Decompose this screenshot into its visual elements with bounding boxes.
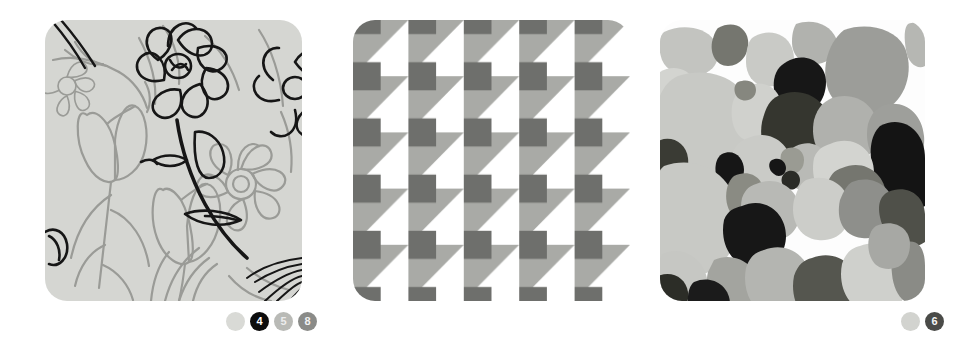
cluster-legend-1: 458 bbox=[226, 311, 317, 331]
checker-texture-image bbox=[353, 20, 630, 301]
legend-badge-1-4[interactable]: 4 bbox=[250, 312, 269, 331]
thumbnail-floral[interactable] bbox=[45, 20, 302, 301]
checker-pattern bbox=[353, 20, 630, 301]
floral-texture-image bbox=[45, 20, 302, 301]
texture-panel-figure: 458 6 bbox=[0, 0, 976, 357]
thumbnail-checker[interactable] bbox=[353, 20, 630, 301]
panel-floral: 458 bbox=[0, 0, 330, 357]
legend-badge-1-8[interactable]: 8 bbox=[298, 312, 317, 331]
legend-swatch-1[interactable] bbox=[226, 312, 245, 331]
legend-badge-1-5[interactable]: 5 bbox=[274, 312, 293, 331]
thumbnail-pebbles[interactable] bbox=[660, 20, 925, 301]
floral-line-art bbox=[45, 20, 302, 301]
pebble-texture-image bbox=[660, 20, 925, 301]
pebble-mosaic bbox=[660, 20, 925, 301]
panel-checker: 6 bbox=[330, 0, 652, 357]
panel-pebbles: 1234578 bbox=[652, 0, 976, 357]
